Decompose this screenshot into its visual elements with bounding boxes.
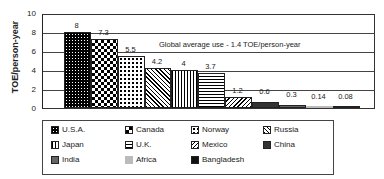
legend-item: Mexico	[191, 140, 227, 149]
bar-bangladesh	[333, 106, 360, 108]
y-tick-label: 10	[24, 9, 36, 18]
y-axis-label: TOE/person-year	[10, 12, 20, 102]
legend-item: U.K.	[125, 140, 152, 149]
bar-russia	[145, 68, 171, 108]
global-average-annotation: Global average use - 1.4 TOE/person-year	[159, 40, 300, 49]
legend-swatch-icon	[125, 156, 133, 164]
legend-item: U.S.A.	[51, 125, 85, 134]
bar-value-label: 8	[62, 21, 92, 30]
y-tick-label: 2	[24, 85, 36, 94]
legend-label: Mexico	[202, 140, 227, 149]
legend-label: Japan	[62, 140, 84, 149]
legend-label: India	[62, 155, 79, 164]
legend-swatch-icon	[263, 141, 271, 149]
legend-item: Japan	[51, 140, 84, 149]
legend-swatch-icon	[191, 156, 199, 164]
legend-swatch-icon	[51, 156, 59, 164]
bar-value-label: 1.2	[223, 86, 253, 95]
bar-value-label: 5.5	[116, 45, 146, 54]
bar-value-label: 7.3	[89, 28, 119, 37]
y-tick-label: 4	[24, 66, 36, 75]
bar-value-label: 4	[169, 59, 199, 68]
y-tick-label: 6	[24, 47, 36, 56]
bar-value-label: 0.6	[250, 87, 280, 96]
bar-mexico	[225, 97, 252, 108]
bar-canada	[91, 39, 118, 108]
legend-swatch-icon	[51, 141, 59, 149]
legend-label: Bangladesh	[202, 155, 244, 164]
legend-label: China	[274, 140, 295, 149]
bar-value-label: 0.3	[277, 90, 307, 99]
y-tick-label: 8	[24, 28, 36, 37]
legend-label: Africa	[136, 155, 156, 164]
bar-africa	[306, 106, 333, 108]
legend-swatch-icon	[191, 126, 199, 134]
bar-value-label: 4.2	[142, 57, 172, 66]
legend-item: Bangladesh	[191, 155, 244, 164]
bar-usa	[64, 32, 91, 108]
legend-item: Canada	[125, 125, 164, 134]
bar-value-label: 3.7	[196, 62, 226, 71]
legend-swatch-icon	[191, 141, 199, 149]
y-tick-label: 0	[24, 104, 36, 113]
bar-uk	[198, 73, 225, 108]
legend: U.S.A.CanadaNorwayRussiaJapanU.K.MexicoC…	[42, 120, 334, 175]
legend-swatch-icon	[125, 141, 133, 149]
legend-label: U.S.A.	[62, 125, 85, 134]
chart: TOE/person-year 0246810 Global average u…	[0, 0, 384, 179]
bar-china	[252, 102, 279, 108]
bar-japan	[171, 70, 198, 108]
bar-value-label: 0.14	[304, 92, 334, 101]
legend-swatch-icon	[263, 126, 271, 134]
legend-label: Norway	[202, 125, 229, 134]
bar-value-label: 0.08	[331, 92, 361, 101]
legend-item: China	[263, 140, 295, 149]
legend-item: Africa	[125, 155, 156, 164]
legend-item: Russia	[263, 125, 298, 134]
legend-label: Russia	[274, 125, 298, 134]
legend-swatch-icon	[125, 126, 133, 134]
legend-item: Norway	[191, 125, 229, 134]
legend-item: India	[51, 155, 79, 164]
legend-label: U.K.	[136, 140, 152, 149]
legend-label: Canada	[136, 125, 164, 134]
legend-swatch-icon	[51, 126, 59, 134]
bar-norway	[118, 56, 145, 108]
bar-india	[279, 105, 306, 108]
